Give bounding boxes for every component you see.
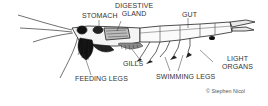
label-digestive-gland-line1: DIGESTIVE — [115, 2, 153, 10]
label-light-organs-line2: ORGANS — [222, 63, 253, 71]
label-digestive-gland: DIGESTIVE GLAND — [115, 2, 153, 17]
light-organ — [209, 36, 215, 40]
krill-anatomy-diagram: STOMACH DIGESTIVE GLAND GUT FEEDING LEGS… — [0, 0, 268, 106]
label-gut: GUT — [182, 11, 197, 19]
label-digestive-gland-line2: GLAND — [115, 10, 153, 18]
label-stomach: STOMACH — [82, 12, 118, 20]
label-swimming-legs: SWIMMING LEGS — [156, 73, 215, 81]
antennae — [18, 15, 78, 78]
label-light-organs: LIGHT ORGANS — [222, 55, 253, 70]
label-gills: GILLS — [123, 60, 143, 68]
label-light-organs-line1: LIGHT — [222, 55, 253, 63]
gills — [118, 43, 143, 50]
body — [72, 20, 255, 46]
label-feeding-legs: FEEDING LEGS — [75, 75, 128, 83]
swimming-leg-setae — [136, 52, 192, 64]
image-credit: © Stephen Nicol — [206, 88, 245, 94]
